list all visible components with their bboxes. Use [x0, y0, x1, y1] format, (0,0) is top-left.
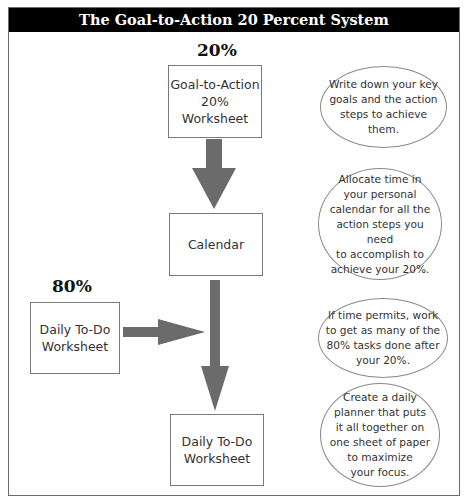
daily-todo-worksheet-input-box: Daily To-Do Worksheet [30, 302, 120, 374]
daily-todo-worksheet-output-box: Daily To-Do Worksheet [170, 414, 264, 486]
note-eighty-percent-tasks: If time permits, work to get as many of … [318, 298, 448, 378]
calendar-box: Calendar [169, 213, 263, 276]
note-allocate-time: Allocate time in your personal calendar … [318, 168, 442, 280]
note-write-goals: Write down your key goals and the action… [320, 66, 447, 148]
note-daily-planner: Create a daily planner that puts it all … [320, 383, 440, 487]
right-arrow-icon [123, 319, 205, 345]
down-arrow-icon [201, 280, 229, 411]
down-arrow-icon [192, 139, 236, 209]
goal-to-action-worksheet-box: Goal-to-Action 20% Worksheet [168, 65, 262, 138]
